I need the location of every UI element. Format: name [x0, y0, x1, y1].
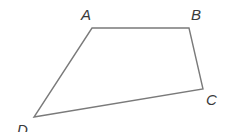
- vertex-label-d: D: [17, 121, 28, 132]
- quadrilateral-diagram: A B C D: [0, 0, 228, 132]
- vertex-label-b: B: [191, 6, 201, 23]
- quadrilateral-abcd: [34, 28, 203, 117]
- vertex-label-c: C: [206, 91, 217, 108]
- vertex-label-a: A: [80, 6, 91, 23]
